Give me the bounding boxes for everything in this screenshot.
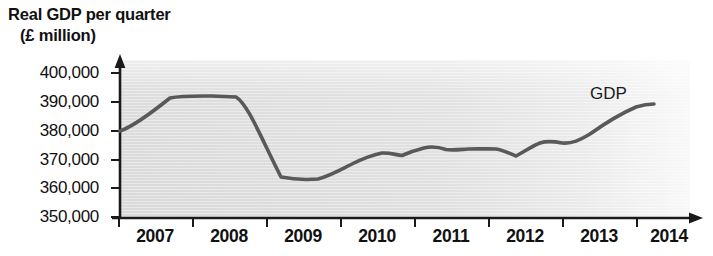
x-axis-tick-label-2008: 2008 [210,226,248,247]
x-axis-tick-mark [562,218,564,227]
gdp-series-label: GDP [590,84,627,104]
x-axis-tick-mark [118,218,120,227]
x-axis-tick-mark [488,218,490,227]
x-axis-tick-mark [192,218,194,227]
x-axis-tick-label-2009: 2009 [284,226,322,247]
x-axis-tick-mark [636,218,638,227]
x-axis-tick-label-2013: 2013 [580,226,618,247]
x-axis-tick-label-2007: 2007 [136,226,174,247]
x-axis-tick-label-2012: 2012 [506,226,544,247]
x-axis-tick-label-2010: 2010 [358,226,396,247]
x-axis-tick-mark [340,218,342,227]
x-axis-tick-label-2014: 2014 [650,226,688,247]
x-axis-tick-mark [414,218,416,227]
plot-area [0,0,713,256]
x-axis-tick-label-2011: 2011 [433,226,470,247]
x-axis-tick-mark [266,218,268,227]
chart-container: Real GDP per quarter (£ million) 400,000… [0,0,713,256]
